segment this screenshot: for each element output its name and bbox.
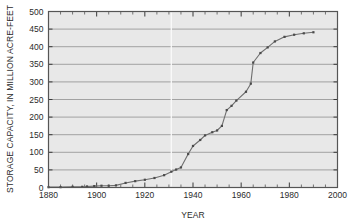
y-tick-label: 200: [29, 112, 43, 122]
x-tick-label: 1920: [135, 190, 154, 200]
y-tick-label: 50: [34, 165, 44, 175]
y-tick-label: 100: [29, 147, 43, 157]
y-tick-label: 300: [29, 77, 43, 87]
y-tick-label: 350: [29, 59, 43, 69]
x-tick-label: 1940: [184, 190, 203, 200]
y-tick-label: 150: [29, 130, 43, 140]
x-tick-label: 1960: [232, 190, 251, 200]
y-axis-title: STORAGE CAPACITY, IN MILLION ACRE-FEET: [5, 5, 15, 193]
storage-capacity-line-chart: 1880190019201940196019802000 05010015020…: [0, 0, 359, 223]
x-tick-label: 1900: [87, 190, 106, 200]
y-tick-label: 450: [29, 24, 43, 34]
x-tick-label: 2000: [328, 190, 347, 200]
y-tick-label: 400: [29, 42, 43, 52]
x-tick-label: 1980: [280, 190, 299, 200]
chart-figure: 1880190019201940196019802000 05010015020…: [0, 0, 359, 223]
y-tick-label: 0: [39, 183, 44, 193]
x-axis-title: YEAR: [181, 210, 205, 220]
y-tick-label: 500: [29, 7, 43, 17]
y-tick-label: 250: [29, 95, 43, 105]
